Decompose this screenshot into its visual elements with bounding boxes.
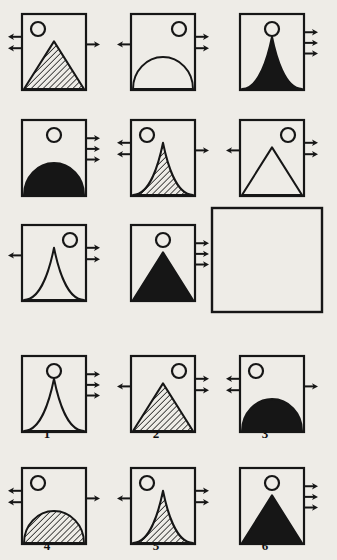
cell-2: [109, 11, 217, 95]
cell-3-circle-icon: [265, 22, 279, 36]
option-3[interactable]: [218, 353, 326, 437]
cell-2-figure: [109, 11, 217, 95]
option-6[interactable]: [218, 465, 326, 549]
cell-9-blank[interactable]: [190, 205, 337, 317]
option-2-figure[interactable]: [109, 353, 217, 437]
cell-3: [218, 11, 326, 95]
option-5-circle-icon: [140, 476, 154, 490]
answer-blank-box[interactable]: [190, 205, 337, 317]
option-2-circle-icon: [172, 364, 186, 378]
cell-4-figure: [0, 117, 108, 201]
option-1-circle-icon: [47, 364, 61, 378]
option-5-label: 5: [146, 538, 166, 554]
option-2[interactable]: [109, 353, 217, 437]
cell-8-circle-icon: [156, 233, 170, 247]
cell-7-spike-white-shape: [24, 248, 84, 300]
option-2-triangle-hatched-shape: [133, 383, 193, 431]
cell-4: [0, 117, 108, 201]
cell-7-figure: [0, 222, 108, 306]
cell-4-dome-black-shape: [24, 163, 84, 195]
option-3-figure[interactable]: [218, 353, 326, 437]
cell-7: [0, 222, 108, 306]
option-5-spike-hatched-shape: [133, 491, 193, 543]
cell-6-triangle-white-shape: [242, 147, 302, 195]
cell-3-spike-black-shape: [242, 37, 302, 89]
cell-5-figure: [109, 117, 217, 201]
cell-6-figure: [218, 117, 326, 201]
option-4-figure[interactable]: [0, 465, 108, 549]
option-6-arrows: [305, 483, 318, 511]
option-4-label: 4: [37, 538, 57, 554]
cell-4-circle-icon: [47, 128, 61, 142]
cell-1-circle-icon: [31, 22, 45, 36]
option-6-figure[interactable]: [218, 465, 326, 549]
cell-7-circle-icon: [63, 233, 77, 247]
option-1-arrows: [87, 371, 100, 399]
option-6-triangle-black-shape: [242, 495, 302, 543]
option-1-box: [22, 356, 86, 432]
cell-3-arrows: [305, 29, 318, 57]
option-1[interactable]: [0, 353, 108, 437]
cell-3-figure: [218, 11, 326, 95]
puzzle-canvas: 123456: [0, 0, 337, 560]
cell-1-figure: [0, 11, 108, 95]
cell-4-arrows: [87, 135, 100, 163]
option-1-spike-white-shape: [24, 379, 84, 431]
option-1-figure[interactable]: [0, 353, 108, 437]
cell-2-dome-white-shape: [133, 57, 193, 89]
option-5-figure[interactable]: [109, 465, 217, 549]
cell-6-circle-icon: [281, 128, 295, 142]
cell-2-circle-icon: [172, 22, 186, 36]
option-6-circle-icon: [265, 476, 279, 490]
option-1-label: 1: [37, 426, 57, 442]
cell-5-spike-hatched-shape: [133, 143, 193, 195]
option-3-circle-icon: [249, 364, 263, 378]
cell-1-triangle-hatched-shape: [24, 41, 84, 89]
cell-5: [109, 117, 217, 201]
cell-1: [0, 11, 108, 95]
option-5[interactable]: [109, 465, 217, 549]
option-4[interactable]: [0, 465, 108, 549]
cell-6: [218, 117, 326, 201]
option-4-circle-icon: [31, 476, 45, 490]
option-2-label: 2: [146, 426, 166, 442]
cell-8-triangle-black-shape: [133, 252, 193, 300]
option-6-label: 6: [255, 538, 275, 554]
cell-5-circle-icon: [140, 128, 154, 142]
option-3-label: 3: [255, 426, 275, 442]
